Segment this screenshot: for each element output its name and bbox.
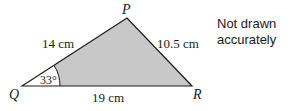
- vertex-label-p: P: [121, 2, 131, 17]
- angle-label-q: 33°: [40, 73, 57, 87]
- note-line-1: Not drawn: [217, 16, 276, 32]
- vertex-label-r: R: [192, 87, 202, 102]
- side-label-pr: 10.5 cm: [157, 36, 199, 51]
- not-drawn-accurately-note: Not drawn accurately: [217, 16, 276, 48]
- vertex-label-q: Q: [9, 87, 19, 102]
- side-label-pq: 14 cm: [42, 36, 74, 51]
- note-line-2: accurately: [217, 32, 276, 48]
- side-label-qr: 19 cm: [92, 90, 124, 105]
